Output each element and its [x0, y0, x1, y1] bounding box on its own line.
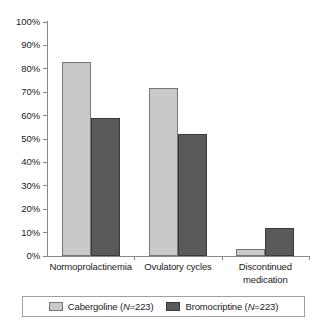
y-axis-tick-label: 10% [21, 227, 43, 239]
y-axis-tick-label: 80% [21, 63, 43, 75]
legend-label: Cabergoline (N=223) [68, 301, 154, 313]
bar-bromocriptine-2 [265, 228, 294, 256]
chart-legend: Cabergoline (N=223)Bromocriptine (N=223) [22, 296, 305, 317]
y-axis-tick: 50% [21, 133, 47, 145]
x-axis-category-label: Discontinuedmedication [216, 261, 315, 286]
y-axis-tick: 30% [21, 180, 47, 192]
y-axis-tick: 70% [21, 86, 47, 98]
y-axis-tick: 80% [21, 63, 47, 75]
category-label-line: Discontinued [239, 261, 292, 272]
y-axis-tick-label: 100% [16, 16, 43, 28]
bar-group [149, 22, 207, 256]
legend-label: Bromocriptine (N=223) [185, 301, 278, 313]
x-axis-line [47, 256, 309, 257]
bar-group [236, 22, 294, 256]
bar-cabergoline-0 [62, 62, 91, 256]
y-axis-tick: 90% [21, 39, 47, 51]
category-label-line: medication [216, 274, 315, 287]
x-axis-divider [134, 256, 135, 260]
x-axis-divider [222, 256, 223, 260]
y-axis-tick: 20% [21, 203, 47, 215]
x-axis-category-label: Ovulatory cycles [128, 261, 227, 274]
y-axis-tick-label: 20% [21, 203, 43, 215]
y-axis-tick-label: 60% [21, 110, 43, 122]
y-axis-tick: 100% [16, 16, 47, 28]
plot-area [47, 22, 309, 256]
x-axis-divider [309, 256, 310, 260]
category-label-line: Normoprolactinemia [50, 261, 132, 272]
legend-swatch-icon [166, 302, 180, 311]
legend-swatch-icon [49, 302, 63, 311]
x-axis-category-labels: NormoprolactinemiaOvulatory cyclesDiscon… [47, 261, 309, 295]
bar-bromocriptine-0 [91, 118, 120, 256]
y-axis-tick-label: 50% [21, 133, 43, 145]
bar-cabergoline-2 [236, 249, 265, 256]
legend-entry-cabergoline[interactable]: Cabergoline (N=223) [49, 301, 154, 313]
bar-cabergoline-1 [149, 88, 178, 256]
y-axis-tick-labels: 0%10%20%30%40%50%60%70%80%90%100% [0, 0, 47, 326]
category-label-line: Ovulatory cycles [144, 261, 211, 272]
bar-bromocriptine-1 [178, 134, 207, 256]
x-axis-category-label: Normoprolactinemia [41, 261, 140, 274]
y-axis-tick: 40% [21, 156, 47, 168]
y-axis-tick-label: 70% [21, 86, 43, 98]
bar-chart: 0%10%20%30%40%50%60%70%80%90%100% Normop… [0, 0, 329, 326]
y-axis-tick-label: 40% [21, 156, 43, 168]
y-axis-tick-label: 90% [21, 39, 43, 51]
y-axis-tick-label: 30% [21, 180, 43, 192]
bar-group [62, 22, 120, 256]
y-axis-tick: 10% [21, 227, 47, 239]
legend-entry-bromocriptine[interactable]: Bromocriptine (N=223) [166, 301, 278, 313]
y-axis-tick: 60% [21, 110, 47, 122]
